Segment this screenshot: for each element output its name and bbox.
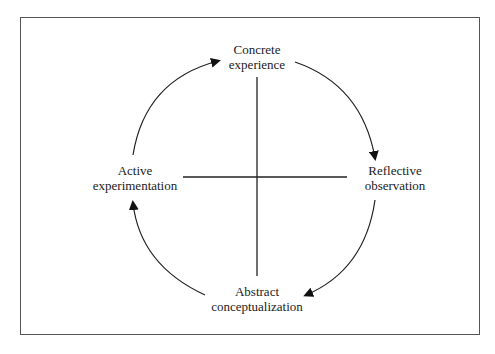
node-concrete-experience: Concrete experience [207, 42, 307, 72]
node-reflective-observation: Reflective observation [345, 163, 445, 193]
arrow-abstract-to-active [133, 203, 205, 295]
node-label-line2: observation [345, 178, 445, 193]
node-label-line2: experience [207, 57, 307, 72]
node-abstract-conceptualization: Abstract conceptualization [197, 284, 317, 314]
node-label-line2: experimentation [85, 178, 185, 193]
node-label-line1: Abstract [197, 284, 317, 299]
arrow-reflective-to-abstract [306, 200, 375, 295]
node-label-line2: conceptualization [197, 299, 317, 314]
arrow-concrete-to-reflective [295, 62, 375, 158]
arrow-active-to-concrete [133, 61, 218, 155]
node-label-line1: Active [85, 163, 185, 178]
node-active-experimentation: Active experimentation [85, 163, 185, 193]
node-label-line1: Concrete [207, 42, 307, 57]
node-label-line1: Reflective [345, 163, 445, 178]
